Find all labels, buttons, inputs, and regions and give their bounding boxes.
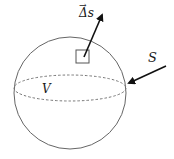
sphere-outline [14, 37, 126, 149]
area-element-label: Δs [78, 6, 94, 20]
area-vector-arrow [84, 15, 102, 57]
surface-label: S [148, 50, 157, 65]
volume-label: V [42, 82, 52, 96]
sphere-diagram: → Δs S V [0, 0, 174, 159]
equator-dashed-ellipse [14, 75, 126, 101]
area-element-square [76, 50, 89, 63]
surface-pointer-arrow [129, 66, 166, 83]
